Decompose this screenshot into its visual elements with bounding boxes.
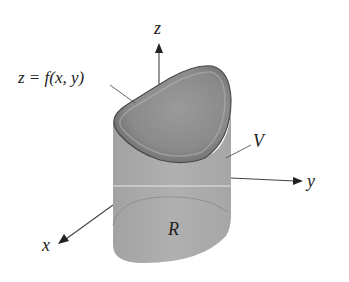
- y-axis: [231, 177, 303, 185]
- y-axis-label: y: [307, 172, 315, 190]
- z-axis-arrow-icon: [155, 43, 163, 53]
- volume-diagram: [0, 0, 349, 282]
- region-label: R: [168, 220, 179, 238]
- x-axis-label: x: [42, 236, 50, 254]
- x-axis-arrow-icon: [58, 234, 69, 244]
- surface-leader-line: [110, 85, 135, 103]
- volume-label: V: [253, 132, 264, 150]
- z-axis: [155, 43, 163, 86]
- surface-label: z = f(x, y): [18, 69, 84, 86]
- z-axis-label: z: [154, 19, 161, 37]
- y-axis-arrow-icon: [293, 177, 303, 185]
- x-axis: [58, 205, 113, 244]
